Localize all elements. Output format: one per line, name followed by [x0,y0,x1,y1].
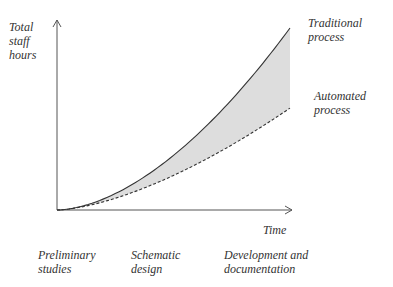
legend-traditional: Traditional process [308,16,362,44]
y-axis-label: Total staff hours [9,20,36,62]
gap-shading [57,28,290,210]
phase-label-preliminary: Preliminary studies [38,248,96,276]
phase-label-development: Development and documentation [224,248,308,276]
phase-label-schematic: Schematic design [131,248,180,276]
legend-automated: Automated process [314,89,366,117]
x-axis-label: Time [263,223,286,237]
